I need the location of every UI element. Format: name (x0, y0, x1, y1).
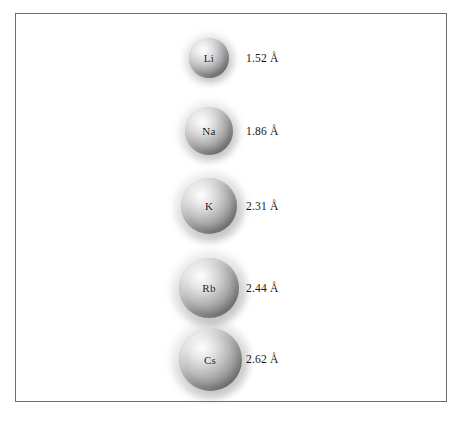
element-symbol: K (205, 200, 213, 212)
atom-sphere-li: Li (189, 38, 229, 78)
atomic-radius-label: 1.52 Å (246, 52, 279, 64)
element-symbol: Cs (204, 353, 216, 365)
atom-sphere-k: K (181, 178, 237, 234)
atomic-radius-label: 1.86 Å (246, 125, 279, 137)
atomic-radius-label: 2.31 Å (246, 200, 279, 212)
atomic-radius-label: 2.44 Å (246, 282, 279, 294)
atomic-radius-label: 2.62 Å (246, 353, 279, 365)
atom-sphere-rb: Rb (179, 258, 239, 318)
element-symbol: Na (202, 125, 215, 137)
element-symbol: Li (204, 52, 214, 64)
atom-sphere-cs: Cs (179, 328, 242, 391)
figure-frame: Li1.52 ÅNa1.86 ÅK2.31 ÅRb2.44 ÅCs2.62 Å (15, 13, 447, 402)
element-symbol: Rb (202, 282, 215, 294)
atom-sphere-na: Na (185, 107, 233, 155)
